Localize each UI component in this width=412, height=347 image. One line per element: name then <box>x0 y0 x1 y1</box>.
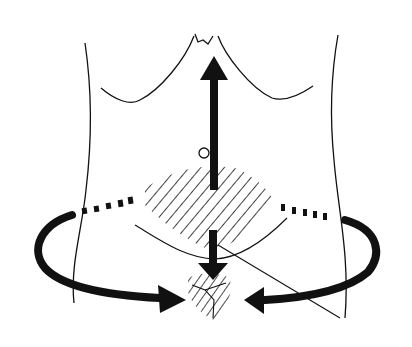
diamond-hatched-area <box>145 166 272 252</box>
diagram-canvas <box>0 0 412 347</box>
left-flank-line <box>73 43 90 303</box>
umbilicus-circle <box>199 148 209 158</box>
right-flank-line <box>331 35 346 318</box>
left-curved-arrow <box>38 215 186 313</box>
small-hatched-area <box>188 274 230 321</box>
anatomical-figure: Abdominal torso diagram with radiating a… <box>0 0 412 347</box>
neck-notch <box>195 34 213 44</box>
diagonal-line <box>218 245 340 318</box>
